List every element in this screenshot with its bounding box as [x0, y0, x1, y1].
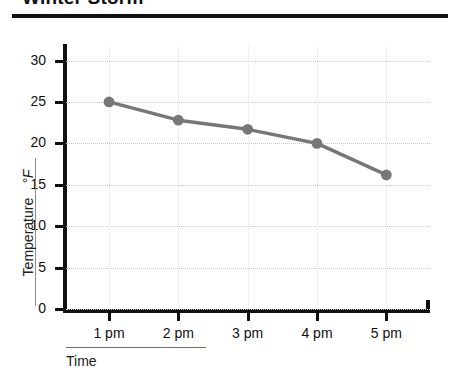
plot-area	[66, 44, 430, 309]
x-axis-tick-label: 5 pm	[356, 325, 416, 341]
y-axis-label-unit: °F	[20, 170, 36, 198]
y-axis-label: Temperature°F	[8, 155, 38, 307]
y-axis-tick	[55, 60, 65, 63]
y-axis-tick	[55, 142, 65, 145]
data-point-marker	[104, 97, 115, 108]
y-axis-tick-label: 30	[12, 52, 46, 68]
y-axis-tick-label: 25	[12, 93, 46, 109]
x-axis-tick	[247, 311, 250, 321]
y-axis-tick	[55, 267, 65, 270]
title-divider	[12, 14, 448, 18]
x-axis-tick	[316, 311, 319, 321]
y-axis-tick	[55, 101, 65, 104]
x-axis-tick-label: 4 pm	[287, 325, 347, 341]
data-point-marker	[312, 138, 323, 149]
data-point-marker	[173, 115, 184, 126]
gridline-horizontal	[66, 309, 430, 310]
data-point-marker	[242, 124, 253, 135]
chart-title: Winter Storm	[22, 0, 144, 9]
y-axis-tick	[55, 184, 65, 187]
x-axis-label: Time	[66, 353, 97, 369]
data-point-marker	[381, 169, 392, 180]
x-axis-tick	[177, 311, 180, 321]
series-line-path	[109, 102, 386, 175]
x-axis-tick-label: 1 pm	[79, 325, 139, 341]
y-axis-label-name: Temperature	[20, 198, 36, 277]
x-axis-tick	[385, 311, 388, 321]
temperature-line-series	[66, 44, 430, 309]
x-axis-tick	[108, 311, 111, 321]
series-markers	[104, 97, 392, 181]
y-axis-tick	[55, 225, 65, 228]
x-axis-label-rule	[66, 347, 206, 348]
y-axis-tick	[55, 308, 65, 311]
x-axis-tick-label: 2 pm	[148, 325, 208, 341]
x-axis-tick-label: 3 pm	[218, 325, 278, 341]
